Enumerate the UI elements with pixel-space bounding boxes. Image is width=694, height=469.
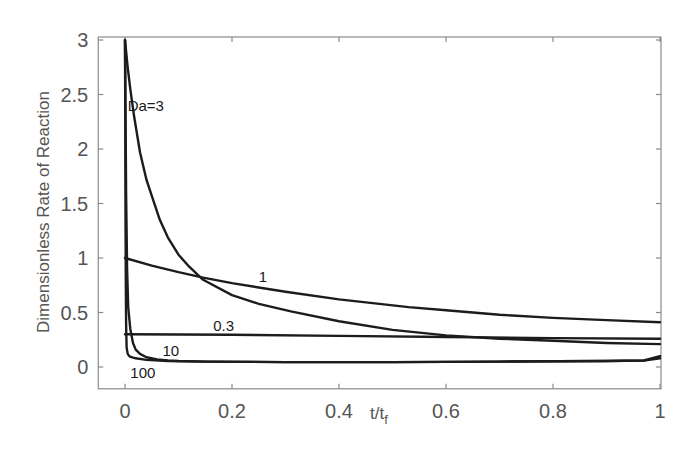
- curve-label-da-100: 100: [130, 364, 155, 381]
- y-tick-label: 2.5: [60, 84, 88, 106]
- curve-da-100: [125, 40, 660, 362]
- curve-labels: Da=310.310100: [128, 97, 267, 381]
- curve-da-1: [125, 258, 660, 322]
- curve-label-da-1: 1: [259, 268, 267, 285]
- x-axis-ticks: 00.20.40.60.81: [119, 37, 665, 422]
- y-tick-label: 3: [77, 29, 88, 51]
- y-tick-label: 1.5: [60, 193, 88, 215]
- y-tick-label: 0: [77, 356, 88, 378]
- x-axis-label: t/tf: [370, 404, 388, 427]
- curve-da-3: [125, 40, 660, 344]
- x-tick-label: 0: [119, 400, 130, 422]
- curve-da-10: [125, 40, 660, 362]
- curve-label-da-3: Da=3: [128, 97, 164, 114]
- plot-curves: [125, 40, 660, 362]
- x-tick-label: 0.2: [218, 400, 246, 422]
- chart-canvas: 00.20.40.60.81 00.511.522.53 Da=310.3101…: [0, 0, 694, 469]
- curve-label-da-0-3: 0.3: [213, 317, 234, 334]
- x-tick-label: 1: [654, 400, 665, 422]
- curve-da-0-3: [125, 334, 660, 338]
- x-tick-label: 0.8: [539, 400, 567, 422]
- x-tick-label: 0.6: [432, 400, 460, 422]
- curve-label-da-10: 10: [162, 342, 179, 359]
- y-tick-label: 2: [77, 138, 88, 160]
- y-tick-label: 1: [77, 247, 88, 269]
- y-axis-label: Dimensionless Rate of Reaction: [34, 91, 53, 333]
- x-tick-label: 0.4: [325, 400, 353, 422]
- y-tick-label: 0.5: [60, 302, 88, 324]
